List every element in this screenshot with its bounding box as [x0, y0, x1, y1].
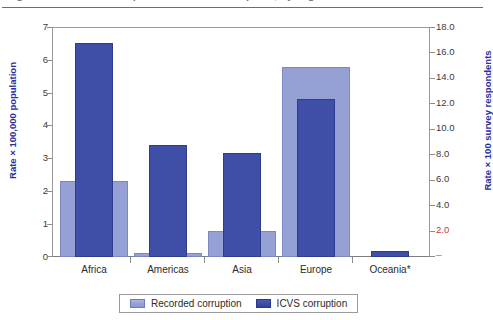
x-label-africa: Africa — [60, 264, 128, 275]
x-axis-labels: Africa Americas Asia Europe Oceania* — [52, 264, 430, 280]
right-tick-2: 2.0 — [436, 224, 470, 235]
right-tick-10: 10.0 — [436, 122, 470, 133]
left-tick-6: 6 — [18, 54, 48, 65]
bar-group-asia — [208, 27, 276, 257]
left-tick-7: 7 — [18, 21, 48, 32]
legend-item-recorded[interactable]: Recorded corruption — [130, 298, 242, 309]
bar-icvs-africa[interactable] — [75, 43, 113, 257]
category-separator-3 — [278, 257, 279, 263]
right-tick-16: 16.0 — [436, 46, 470, 57]
left-tick-5: 5 — [18, 87, 48, 98]
x-label-americas: Americas — [134, 264, 202, 275]
x-label-asia: Asia — [208, 264, 276, 275]
bar-group-americas — [134, 27, 202, 257]
bar-group-europe — [282, 27, 350, 257]
right-tick-4: 4.0 — [436, 199, 470, 210]
right-tick-14: 14.0 — [436, 71, 470, 82]
right-axis-title: Rate × 100 survey respondents — [482, 46, 493, 196]
right-axis-ticks: 18.0 16.0 14.0 12.0 10.0 8.0 6.0 4.0 2.0… — [436, 27, 476, 257]
legend-label-icvs: ICVS corruption — [277, 298, 348, 309]
right-tick-0: – — [436, 249, 470, 260]
bar-icvs-europe[interactable] — [297, 99, 335, 257]
legend-item-icvs[interactable]: ICVS corruption — [256, 298, 348, 309]
left-axis-ticks: 7 6 5 4 3 2 1 0 — [18, 27, 48, 257]
left-tick-3: 3 — [18, 152, 48, 163]
bar-icvs-asia[interactable] — [223, 153, 261, 257]
left-axis-title: Rate × 100,000 population — [7, 46, 18, 196]
x-label-oceania: Oceania* — [356, 264, 424, 275]
bar-series-container — [52, 27, 430, 257]
bar-group-africa — [60, 27, 128, 257]
right-tick-6: 6.0 — [436, 173, 470, 184]
right-tick-marks — [430, 27, 436, 257]
bar-icvs-oceania[interactable] — [371, 251, 409, 258]
caption-rule — [2, 7, 483, 8]
category-separator-4 — [352, 257, 353, 263]
left-tick-4: 4 — [18, 119, 48, 130]
left-tick-1: 1 — [18, 218, 48, 229]
dark-blue-swatch-icon — [256, 299, 271, 308]
bar-icvs-americas[interactable] — [149, 145, 187, 257]
left-tick-2: 2 — [18, 185, 48, 196]
category-separator-2 — [204, 257, 205, 263]
right-tick-18: 18.0 — [436, 21, 470, 32]
legend-label-recorded: Recorded corruption — [151, 298, 242, 309]
figure-caption-text: Figure: Recorded corruption and ICVS cor… — [6, 0, 332, 1]
chart-legend: Recorded corruption ICVS corruption — [119, 294, 358, 313]
bar-group-oceania — [356, 27, 424, 257]
left-tick-0: 0 — [18, 251, 48, 262]
x-label-europe: Europe — [282, 264, 350, 275]
category-separator-1 — [130, 257, 131, 263]
right-tick-12: 12.0 — [436, 97, 470, 108]
light-blue-swatch-icon — [130, 299, 145, 308]
right-tick-8: 8.0 — [436, 148, 470, 159]
